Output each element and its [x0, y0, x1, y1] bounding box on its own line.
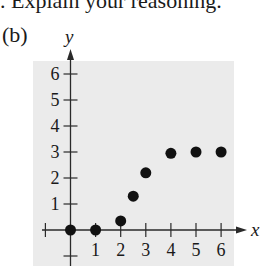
y-tick-label: 4 [51, 116, 60, 136]
x-axis-label: x [250, 219, 260, 240]
x-tick-label: 6 [217, 240, 226, 260]
y-axis-arrow-icon [67, 49, 74, 60]
data-point [165, 148, 176, 159]
data-point [128, 191, 139, 202]
x-tick-label: 1 [91, 240, 100, 260]
plot-background [33, 61, 234, 266]
data-point [90, 225, 101, 236]
data-point [115, 215, 126, 226]
y-tick-label: 2 [51, 168, 60, 188]
y-tick-label: 5 [51, 90, 60, 110]
data-point [216, 147, 227, 158]
y-tick-label: 1 [51, 194, 60, 214]
scatter-plot: xy123456123456 [0, 0, 263, 266]
x-tick-label: 3 [141, 240, 150, 260]
y-tick-label: 6 [51, 64, 60, 84]
x-tick-label: 4 [166, 240, 175, 260]
x-axis-arrow-icon [236, 227, 247, 234]
data-point [191, 147, 202, 158]
y-tick-label: 3 [51, 142, 60, 162]
x-tick-label: 5 [192, 240, 201, 260]
x-tick-label: 2 [116, 240, 125, 260]
data-point [65, 225, 76, 236]
data-point [140, 167, 151, 178]
y-axis-label: y [63, 26, 74, 47]
